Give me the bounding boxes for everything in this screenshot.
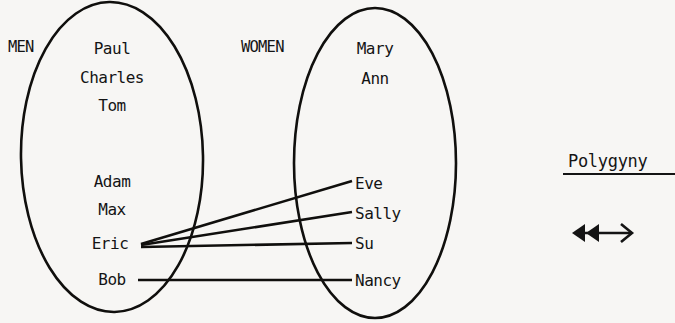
polygyny-symbol-icon xyxy=(572,224,632,242)
men-member-name: Adam xyxy=(94,172,131,191)
men-set-label: MEN xyxy=(8,38,34,56)
men-member-name: Eric xyxy=(92,234,129,253)
women-member-name: Nancy xyxy=(355,271,402,290)
kinship-diagram: MEN WOMEN Paul Charles Tom Adam Max Eric… xyxy=(0,0,675,323)
men-member-name: Tom xyxy=(98,96,125,115)
women-member-name: Ann xyxy=(361,69,388,88)
women-member-name: Sally xyxy=(355,204,402,223)
diagram-canvas: MEN WOMEN Paul Charles Tom Adam Max Eric… xyxy=(0,0,675,323)
women-member-name: Eve xyxy=(355,174,382,193)
men-member-name: Charles xyxy=(80,68,144,87)
women-member-name: Mary xyxy=(357,39,394,58)
men-member-name: Bob xyxy=(98,270,125,289)
men-member-name: Paul xyxy=(94,39,131,58)
men-member-name: Max xyxy=(98,200,126,219)
link-eric-sally xyxy=(141,212,352,245)
women-set-label: WOMEN xyxy=(241,38,284,56)
women-member-name: Su xyxy=(355,234,373,253)
link-eric-eve xyxy=(141,181,352,244)
link-eric-su xyxy=(141,243,352,247)
legend-title: Polygyny xyxy=(568,151,648,171)
